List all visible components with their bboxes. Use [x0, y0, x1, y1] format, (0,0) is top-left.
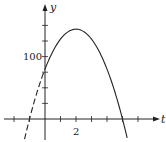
solid-curve: [45, 29, 127, 138]
dashed-curve: [23, 69, 45, 142]
y-axis-arrow-icon: [43, 4, 48, 11]
chart: y t 2 100: [0, 0, 166, 142]
y-axis-label: y: [49, 1, 57, 14]
axes: [4, 4, 160, 140]
x-tick-label-2: 2: [73, 126, 79, 137]
x-axis-arrow-icon: [153, 117, 160, 122]
x-axis-label: t: [161, 113, 166, 126]
y-tick-label-100: 100: [23, 51, 42, 62]
